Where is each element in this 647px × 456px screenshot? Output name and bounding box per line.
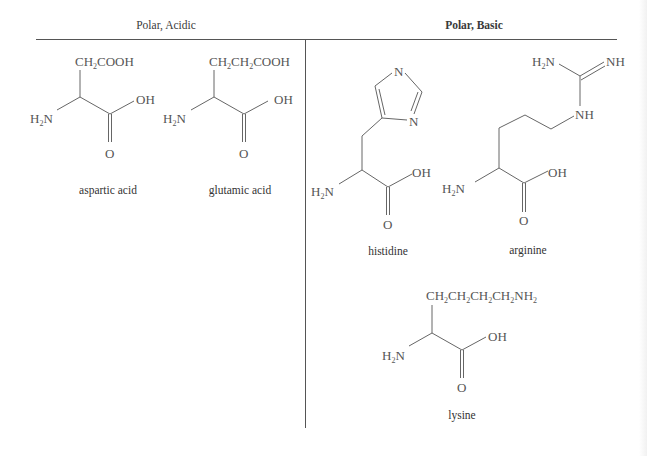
aspartic-carbonyl: O: [105, 146, 114, 161]
amino-acid-diagram: Polar, Acidic Polar, Basic CH2COOH OH O …: [0, 0, 647, 456]
glutamic-acid-label: glutamic acid: [209, 184, 272, 197]
aspartic-side-chain: CH2COOH: [75, 54, 134, 71]
header-polar-acidic: Polar, Acidic: [136, 19, 196, 32]
arginine-carbonyl: O: [519, 213, 528, 228]
arginine-hydroxyl: OH: [548, 165, 567, 180]
histidine-ring-n2: N: [409, 114, 419, 129]
arginine-amine: H2N: [442, 181, 465, 198]
molecule-arginine: H2N NH NH OH O H2N arginine: [442, 54, 625, 257]
aspartic-acid-label: aspartic acid: [79, 184, 137, 197]
arginine-label: arginine: [509, 244, 546, 257]
aspartic-amine: H2N: [30, 111, 53, 128]
lysine-hydroxyl: OH: [488, 329, 507, 344]
arginine-guanidine-amine: H2N: [532, 54, 555, 71]
glutamic-side-chain: CH2CH2COOH: [209, 54, 290, 71]
lysine-carbonyl: O: [457, 380, 466, 395]
header-polar-basic: Polar, Basic: [445, 19, 503, 31]
aspartic-hydroxyl: OH: [136, 92, 155, 107]
molecule-glutamic-acid: CH2CH2COOH OH O H2N glutamic acid: [163, 54, 293, 197]
glutamic-carbonyl: O: [239, 146, 248, 161]
histidine-carbonyl: O: [383, 217, 392, 232]
glutamic-amine: H2N: [163, 111, 186, 128]
histidine-ring-n1: N: [394, 64, 404, 79]
arginine-imine: NH: [606, 54, 625, 69]
lysine-side-chain: CH2CH2CH2CH2NH2: [426, 288, 537, 305]
histidine-hydroxyl: OH: [412, 165, 431, 180]
histidine-label: histidine: [368, 245, 408, 257]
lysine-label: lysine: [448, 409, 475, 422]
molecule-aspartic-acid: CH2COOH OH O H2N aspartic acid: [30, 54, 155, 197]
arginine-nh-link: NH: [575, 107, 594, 122]
histidine-amine: H2N: [311, 184, 334, 201]
glutamic-hydroxyl: OH: [274, 92, 293, 107]
lysine-amine: H2N: [382, 348, 405, 365]
molecule-lysine: CH2CH2CH2CH2NH2 OH O H2N lysine: [382, 288, 537, 422]
page-edge-shadow: [639, 0, 647, 456]
molecule-histidine: N N OH O H2N histidine: [311, 64, 431, 257]
